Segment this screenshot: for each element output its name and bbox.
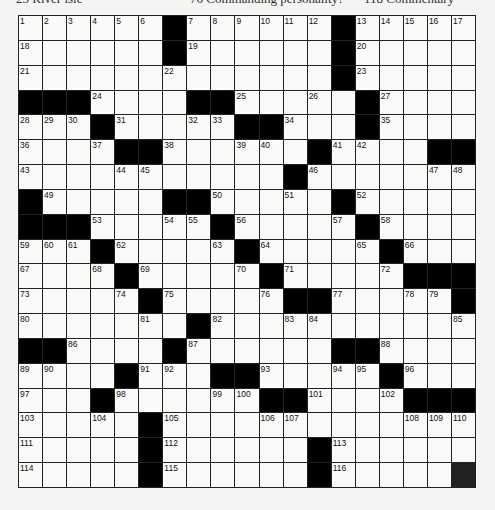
grid-cell[interactable] (211, 413, 234, 437)
grid-cell[interactable] (91, 314, 114, 338)
grid-cell[interactable] (43, 413, 66, 437)
grid-cell[interactable] (235, 165, 258, 189)
grid-cell[interactable] (380, 289, 403, 313)
grid-cell[interactable] (115, 91, 138, 115)
grid-cell[interactable] (308, 264, 331, 288)
grid-cell[interactable]: 63 (211, 240, 234, 264)
grid-cell[interactable]: 8 (211, 16, 234, 40)
grid-cell[interactable] (91, 41, 114, 65)
grid-cell[interactable] (404, 314, 427, 338)
grid-cell[interactable] (260, 190, 283, 214)
grid-cell[interactable]: 7 (187, 16, 210, 40)
grid-cell[interactable] (308, 190, 331, 214)
grid-cell[interactable] (260, 165, 283, 189)
grid-cell[interactable]: 59 (19, 240, 42, 264)
grid-cell[interactable] (139, 66, 162, 90)
grid-cell[interactable]: 50 (211, 190, 234, 214)
grid-cell[interactable] (284, 240, 307, 264)
grid-cell[interactable] (380, 165, 403, 189)
grid-cell[interactable]: 75 (163, 289, 186, 313)
grid-cell[interactable] (356, 463, 379, 487)
grid-cell[interactable] (115, 66, 138, 90)
grid-cell[interactable] (91, 165, 114, 189)
grid-cell[interactable]: 23 (356, 66, 379, 90)
grid-cell[interactable]: 116 (332, 463, 355, 487)
grid-cell[interactable] (163, 240, 186, 264)
grid-cell[interactable] (452, 364, 475, 388)
grid-cell[interactable] (284, 463, 307, 487)
grid-cell[interactable]: 93 (260, 364, 283, 388)
grid-cell[interactable]: 42 (356, 140, 379, 164)
grid-cell[interactable] (284, 215, 307, 239)
grid-cell[interactable] (139, 41, 162, 65)
grid-cell[interactable] (211, 41, 234, 65)
grid-cell[interactable] (260, 339, 283, 363)
grid-cell[interactable] (332, 165, 355, 189)
grid-cell[interactable] (284, 66, 307, 90)
grid-cell[interactable]: 113 (332, 438, 355, 462)
grid-cell[interactable]: 21 (19, 66, 42, 90)
grid-cell[interactable]: 52 (356, 190, 379, 214)
grid-cell[interactable] (428, 314, 451, 338)
grid-cell[interactable]: 110 (452, 413, 475, 437)
grid-cell[interactable] (428, 41, 451, 65)
grid-cell[interactable]: 1 (19, 16, 42, 40)
grid-cell[interactable]: 96 (404, 364, 427, 388)
grid-cell[interactable]: 79 (428, 289, 451, 313)
grid-cell[interactable] (260, 91, 283, 115)
grid-cell[interactable]: 53 (91, 215, 114, 239)
grid-cell[interactable]: 103 (19, 413, 42, 437)
grid-cell[interactable]: 34 (284, 115, 307, 139)
grid-cell[interactable]: 55 (187, 215, 210, 239)
grid-cell[interactable] (428, 91, 451, 115)
grid-cell[interactable]: 39 (235, 140, 258, 164)
grid-cell[interactable] (67, 413, 90, 437)
grid-cell[interactable] (235, 463, 258, 487)
grid-cell[interactable] (163, 389, 186, 413)
grid-cell[interactable] (115, 438, 138, 462)
grid-cell[interactable]: 9 (235, 16, 258, 40)
grid-cell[interactable]: 105 (163, 413, 186, 437)
grid-cell[interactable]: 97 (19, 389, 42, 413)
grid-cell[interactable] (67, 364, 90, 388)
grid-cell[interactable]: 67 (19, 264, 42, 288)
grid-cell[interactable] (332, 264, 355, 288)
grid-cell[interactable]: 38 (163, 140, 186, 164)
grid-cell[interactable] (380, 140, 403, 164)
grid-cell[interactable] (139, 115, 162, 139)
grid-cell[interactable]: 14 (380, 16, 403, 40)
grid-cell[interactable] (115, 314, 138, 338)
grid-cell[interactable]: 16 (428, 16, 451, 40)
grid-cell[interactable]: 69 (139, 264, 162, 288)
grid-cell[interactable]: 54 (163, 215, 186, 239)
grid-cell[interactable]: 90 (43, 364, 66, 388)
grid-cell[interactable]: 89 (19, 364, 42, 388)
grid-cell[interactable]: 27 (380, 91, 403, 115)
grid-cell[interactable]: 18 (19, 41, 42, 65)
grid-cell[interactable]: 88 (380, 339, 403, 363)
grid-cell[interactable]: 100 (235, 389, 258, 413)
grid-cell[interactable] (284, 41, 307, 65)
grid-cell[interactable]: 104 (91, 413, 114, 437)
grid-cell[interactable] (308, 364, 331, 388)
grid-cell[interactable] (380, 190, 403, 214)
grid-cell[interactable] (452, 190, 475, 214)
grid-cell[interactable]: 19 (187, 41, 210, 65)
grid-cell[interactable] (67, 41, 90, 65)
grid-cell[interactable] (187, 264, 210, 288)
grid-cell[interactable]: 68 (91, 264, 114, 288)
grid-cell[interactable] (260, 438, 283, 462)
grid-cell[interactable] (187, 66, 210, 90)
grid-cell[interactable] (187, 463, 210, 487)
grid-cell[interactable] (356, 413, 379, 437)
grid-cell[interactable] (211, 140, 234, 164)
grid-cell[interactable] (139, 389, 162, 413)
grid-cell[interactable] (211, 438, 234, 462)
grid-cell[interactable]: 66 (404, 240, 427, 264)
grid-cell[interactable] (308, 66, 331, 90)
grid-cell[interactable] (163, 115, 186, 139)
grid-cell[interactable]: 58 (380, 215, 403, 239)
grid-cell[interactable] (428, 115, 451, 139)
grid-cell[interactable] (404, 215, 427, 239)
grid-cell[interactable] (43, 438, 66, 462)
